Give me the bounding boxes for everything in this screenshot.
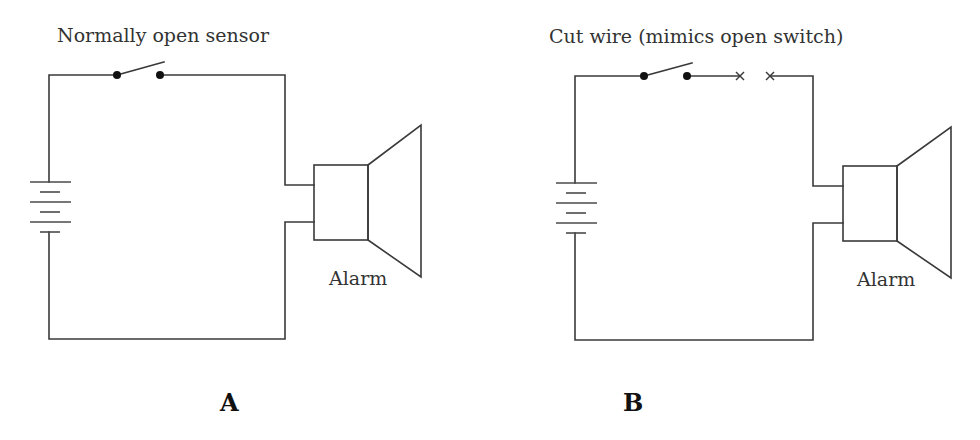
panel-b-letter: B <box>623 388 643 417</box>
speaker-alarm-icon <box>314 125 421 277</box>
panel-b-alarm-label: Alarm <box>856 268 915 290</box>
open-switch-icon <box>113 62 164 79</box>
panel-a-caption: Normally open sensor <box>57 24 270 46</box>
battery-icon <box>556 183 597 233</box>
wire-bottom <box>49 222 314 339</box>
wire-cut-right <box>770 76 843 186</box>
circuit-diagram: Normally open sensor Alarm A <box>0 0 980 440</box>
wire-top-right <box>160 75 314 185</box>
panel-a-letter: A <box>219 388 239 417</box>
wire-top-left <box>575 76 644 183</box>
wire-top-left <box>49 75 117 182</box>
panel-b: Cut wire (mimics open switch) <box>549 25 951 417</box>
panel-b-caption: Cut wire (mimics open switch) <box>549 25 843 47</box>
battery-icon <box>30 182 71 232</box>
panel-a-wires <box>49 75 314 339</box>
speaker-alarm-icon <box>843 127 951 278</box>
wire-bottom <box>575 223 843 340</box>
open-switch-icon <box>640 63 692 80</box>
panel-b-wires <box>575 76 843 340</box>
panel-a: Normally open sensor Alarm A <box>30 24 421 417</box>
panel-a-alarm-label: Alarm <box>328 267 387 289</box>
